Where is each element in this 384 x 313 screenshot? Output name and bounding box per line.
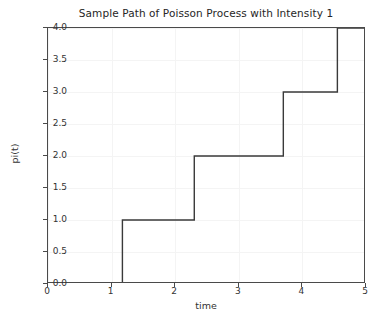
y-tick-label: 3.5 xyxy=(33,55,67,64)
x-tick-label: 0 xyxy=(32,287,62,296)
x-tick-label: 3 xyxy=(223,287,253,296)
chart-figure: Sample Path of Poisson Process with Inte… xyxy=(0,0,384,313)
y-tick-label: 0.5 xyxy=(33,247,67,256)
y-axis-title: pi(t) xyxy=(9,132,20,176)
chart-title: Sample Path of Poisson Process with Inte… xyxy=(47,7,365,19)
x-tick-label: 5 xyxy=(350,287,380,296)
y-tick-label: 1.5 xyxy=(33,183,67,192)
y-tick-label: 1.0 xyxy=(33,215,67,224)
y-tick-label: 4.0 xyxy=(33,23,67,32)
step-line-series xyxy=(48,28,365,283)
y-tick-label: 3.0 xyxy=(33,87,67,96)
poisson-sample-path xyxy=(48,28,365,283)
x-tick-label: 1 xyxy=(96,287,126,296)
x-tick-label: 2 xyxy=(159,287,189,296)
x-tick-label: 4 xyxy=(286,287,316,296)
y-tick-label: 2.5 xyxy=(33,119,67,128)
x-axis-title: time xyxy=(47,300,365,311)
plot-area xyxy=(47,27,365,283)
y-tick-label: 2.0 xyxy=(33,151,67,160)
